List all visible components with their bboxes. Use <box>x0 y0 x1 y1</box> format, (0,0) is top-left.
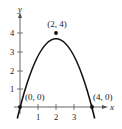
x-axis-arrow-icon <box>102 105 108 109</box>
x-tick-label: 1 <box>36 112 40 122</box>
point-x-intercept <box>90 105 94 109</box>
y-tick-label: 4 <box>10 28 15 38</box>
y-tick-label: 1 <box>10 84 14 94</box>
y-axis-label: y <box>17 4 22 14</box>
annotation-origin: (0, 0) <box>25 92 45 102</box>
annotation-vertex: (2, 4) <box>47 19 67 29</box>
point-origin <box>18 105 22 109</box>
point-vertex <box>54 31 58 35</box>
y-tick-label: 3 <box>10 47 14 57</box>
x-axis-label: x <box>109 102 114 112</box>
x-tick-label: 2 <box>54 112 58 122</box>
annotation-x-intercept: (4, 0) <box>93 92 113 102</box>
x-tick-label: 3 <box>72 112 76 122</box>
y-tick-label: 2 <box>10 66 14 76</box>
parabola-chart: y x 1 2 3 1 2 3 4 (0, 0) (2, 4) (4, 0) <box>0 0 122 129</box>
